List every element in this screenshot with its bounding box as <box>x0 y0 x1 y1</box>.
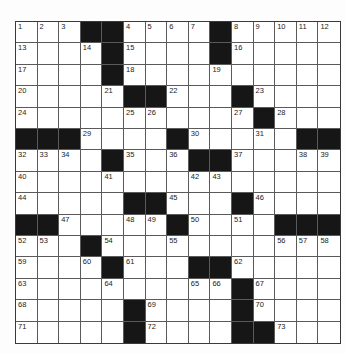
grid-cell[interactable]: 57 <box>297 236 319 257</box>
grid-cell[interactable] <box>146 43 168 64</box>
grid-cell[interactable]: 63 <box>16 279 38 300</box>
grid-cell[interactable]: 22 <box>167 86 189 107</box>
grid-cell[interactable]: 43 <box>210 172 232 193</box>
grid-cell[interactable]: 1 <box>16 22 38 43</box>
grid-cell[interactable] <box>189 86 211 107</box>
grid-cell[interactable] <box>38 172 60 193</box>
grid-cell[interactable] <box>275 65 297 86</box>
grid-cell[interactable] <box>254 65 276 86</box>
grid-cell[interactable] <box>59 279 81 300</box>
grid-cell[interactable]: 21 <box>102 86 124 107</box>
grid-cell[interactable] <box>102 108 124 129</box>
grid-cell[interactable] <box>167 279 189 300</box>
grid-cell[interactable] <box>146 257 168 278</box>
grid-cell[interactable]: 23 <box>254 86 276 107</box>
grid-cell[interactable]: 42 <box>189 172 211 193</box>
grid-cell[interactable] <box>318 65 340 86</box>
grid-cell[interactable]: 58 <box>318 236 340 257</box>
grid-cell[interactable] <box>146 279 168 300</box>
grid-cell[interactable] <box>275 172 297 193</box>
grid-cell[interactable] <box>59 322 81 343</box>
grid-cell[interactable] <box>38 108 60 129</box>
grid-cell[interactable]: 48 <box>124 215 146 236</box>
grid-cell[interactable]: 26 <box>146 108 168 129</box>
grid-cell[interactable] <box>167 322 189 343</box>
grid-cell[interactable] <box>254 236 276 257</box>
grid-cell[interactable] <box>297 279 319 300</box>
grid-cell[interactable] <box>232 236 254 257</box>
grid-cell[interactable] <box>38 279 60 300</box>
grid-cell[interactable]: 18 <box>124 65 146 86</box>
grid-cell[interactable] <box>297 108 319 129</box>
grid-cell[interactable] <box>59 300 81 321</box>
grid-cell[interactable]: 30 <box>189 129 211 150</box>
grid-cell[interactable]: 9 <box>254 22 276 43</box>
grid-cell[interactable] <box>146 65 168 86</box>
grid-cell[interactable]: 49 <box>146 215 168 236</box>
grid-cell[interactable] <box>81 150 103 171</box>
grid-cell[interactable] <box>297 43 319 64</box>
grid-cell[interactable]: 19 <box>210 65 232 86</box>
grid-cell[interactable] <box>189 43 211 64</box>
grid-cell[interactable] <box>275 129 297 150</box>
grid-cell[interactable]: 3 <box>59 22 81 43</box>
grid-cell[interactable]: 40 <box>16 172 38 193</box>
grid-cell[interactable]: 44 <box>16 193 38 214</box>
grid-cell[interactable] <box>254 257 276 278</box>
grid-cell[interactable]: 67 <box>254 279 276 300</box>
grid-cell[interactable]: 33 <box>38 150 60 171</box>
grid-cell[interactable]: 10 <box>275 22 297 43</box>
grid-cell[interactable] <box>318 172 340 193</box>
grid-cell[interactable] <box>167 257 189 278</box>
grid-cell[interactable] <box>38 43 60 64</box>
grid-cell[interactable]: 5 <box>146 22 168 43</box>
grid-cell[interactable]: 15 <box>124 43 146 64</box>
grid-cell[interactable] <box>167 65 189 86</box>
grid-cell[interactable] <box>254 215 276 236</box>
grid-cell[interactable]: 14 <box>81 43 103 64</box>
grid-cell[interactable] <box>318 322 340 343</box>
grid-cell[interactable]: 45 <box>167 193 189 214</box>
grid-cell[interactable]: 41 <box>102 172 124 193</box>
grid-cell[interactable]: 72 <box>146 322 168 343</box>
grid-cell[interactable] <box>318 257 340 278</box>
grid-cell[interactable] <box>210 86 232 107</box>
grid-cell[interactable] <box>81 215 103 236</box>
grid-cell[interactable]: 20 <box>16 86 38 107</box>
grid-cell[interactable] <box>146 150 168 171</box>
grid-cell[interactable] <box>318 43 340 64</box>
grid-cell[interactable]: 66 <box>210 279 232 300</box>
grid-cell[interactable] <box>189 65 211 86</box>
grid-cell[interactable] <box>297 300 319 321</box>
grid-cell[interactable] <box>254 150 276 171</box>
grid-cell[interactable] <box>275 300 297 321</box>
grid-cell[interactable] <box>254 43 276 64</box>
grid-cell[interactable] <box>318 108 340 129</box>
grid-cell[interactable] <box>275 43 297 64</box>
grid-cell[interactable] <box>232 172 254 193</box>
grid-cell[interactable]: 2 <box>38 22 60 43</box>
grid-cell[interactable] <box>318 86 340 107</box>
grid-cell[interactable]: 59 <box>16 257 38 278</box>
grid-cell[interactable]: 36 <box>167 150 189 171</box>
grid-cell[interactable] <box>38 257 60 278</box>
grid-cell[interactable] <box>167 300 189 321</box>
grid-cell[interactable]: 73 <box>275 322 297 343</box>
grid-cell[interactable] <box>146 236 168 257</box>
grid-cell[interactable] <box>297 257 319 278</box>
grid-cell[interactable] <box>38 193 60 214</box>
grid-cell[interactable] <box>189 108 211 129</box>
grid-cell[interactable]: 51 <box>232 215 254 236</box>
grid-cell[interactable] <box>275 193 297 214</box>
grid-cell[interactable] <box>59 108 81 129</box>
grid-cell[interactable] <box>189 236 211 257</box>
grid-cell[interactable] <box>102 322 124 343</box>
grid-cell[interactable] <box>102 300 124 321</box>
grid-cell[interactable]: 69 <box>146 300 168 321</box>
grid-cell[interactable]: 25 <box>124 108 146 129</box>
grid-cell[interactable] <box>318 300 340 321</box>
grid-cell[interactable]: 70 <box>254 300 276 321</box>
grid-cell[interactable] <box>59 65 81 86</box>
grid-cell[interactable] <box>232 65 254 86</box>
grid-cell[interactable] <box>81 65 103 86</box>
